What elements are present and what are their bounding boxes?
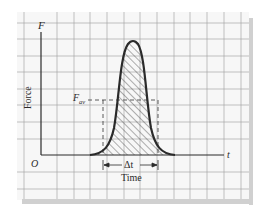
average-force-subscript: av xyxy=(79,98,85,105)
impulse-force-time-diagram: F t O Force Time Δt Fav xyxy=(0,0,263,218)
force-axis-label: Force xyxy=(22,86,33,109)
time-axis-symbol: t xyxy=(227,149,230,160)
frame-shadow-bottom xyxy=(22,199,253,204)
origin-label: O xyxy=(31,158,38,169)
force-axis-symbol: F xyxy=(37,19,45,31)
time-axis-label: Time xyxy=(121,172,142,183)
delta-t-label: Δt xyxy=(124,159,133,170)
frame-shadow-right xyxy=(249,18,253,205)
